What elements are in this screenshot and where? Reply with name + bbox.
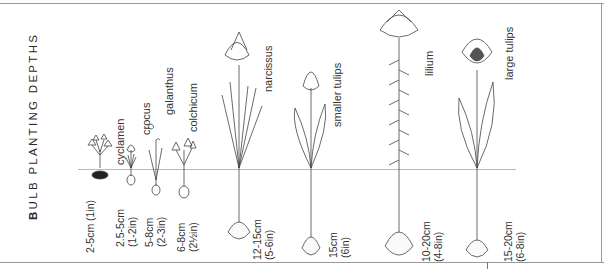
depth-label-cyclamen: 2-5cm (1in)	[84, 200, 96, 253]
depth-label-colchicum: 6-8cm(2½in)	[175, 222, 199, 252]
depth-label-crocus: 2.5-5cm(1-2in)	[114, 209, 138, 247]
narcissus-illustration	[222, 32, 262, 239]
depth-label-galanthus: 5-8cm(2-3in)	[143, 217, 167, 247]
depth-label-narcissus: 12-15cm(5-6in)	[251, 219, 275, 260]
depth-label-smaller-tulips: 15cm(6in)	[327, 232, 351, 258]
crocus-illustration	[126, 145, 136, 185]
cyclamen-illustration	[88, 134, 112, 179]
plant-label-colchicum: colchicum	[187, 83, 199, 132]
plant-label-galanthus: galanthus	[163, 67, 175, 115]
plant-label-smaller-tulips: smaller tulips	[331, 63, 343, 127]
plant-label-crocus: crocus	[140, 103, 152, 135]
lilium-illustration	[380, 10, 418, 255]
plant-label-cyclamen: cyclamen	[114, 119, 126, 165]
depth-label-lilium: 10-20cm(4-8in)	[420, 221, 444, 262]
plant-label-large-tulips: large tulips	[503, 27, 515, 80]
colchicum-illustration	[172, 138, 196, 198]
plant-label-lilium: lilium	[423, 51, 435, 76]
smaller-tulips-illustration	[294, 72, 325, 255]
plant-label-narcissus: narcissus	[262, 46, 274, 92]
large-tulips-illustration	[458, 39, 494, 257]
depth-label-large-tulips: 15-20cm(6-8in)	[502, 221, 526, 262]
